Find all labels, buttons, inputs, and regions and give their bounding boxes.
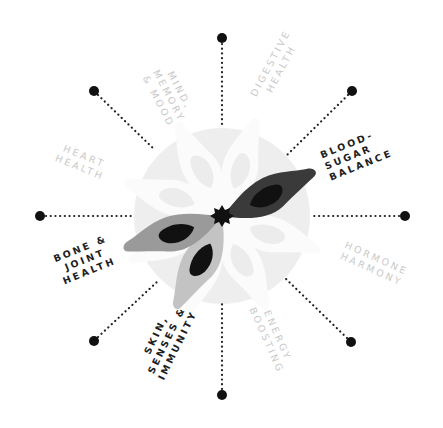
dot-digestive — [347, 86, 357, 96]
spoke-heart — [98, 95, 155, 150]
dot-heart — [89, 86, 99, 96]
spoke-hormone — [284, 277, 347, 338]
spoke-skin — [98, 281, 158, 337]
dot-energy — [217, 390, 227, 400]
dot-bone — [35, 211, 45, 221]
dot-skin — [89, 336, 99, 346]
dot-hormone — [346, 337, 356, 347]
health-benefits-wheel-diagram: MIND, MEMORY & MOOD DIGESTIVE HEALTH BLO… — [0, 0, 443, 428]
dot-mind — [217, 33, 227, 43]
dot-blood-sugar — [400, 211, 410, 221]
wheel-graphic — [0, 0, 443, 428]
